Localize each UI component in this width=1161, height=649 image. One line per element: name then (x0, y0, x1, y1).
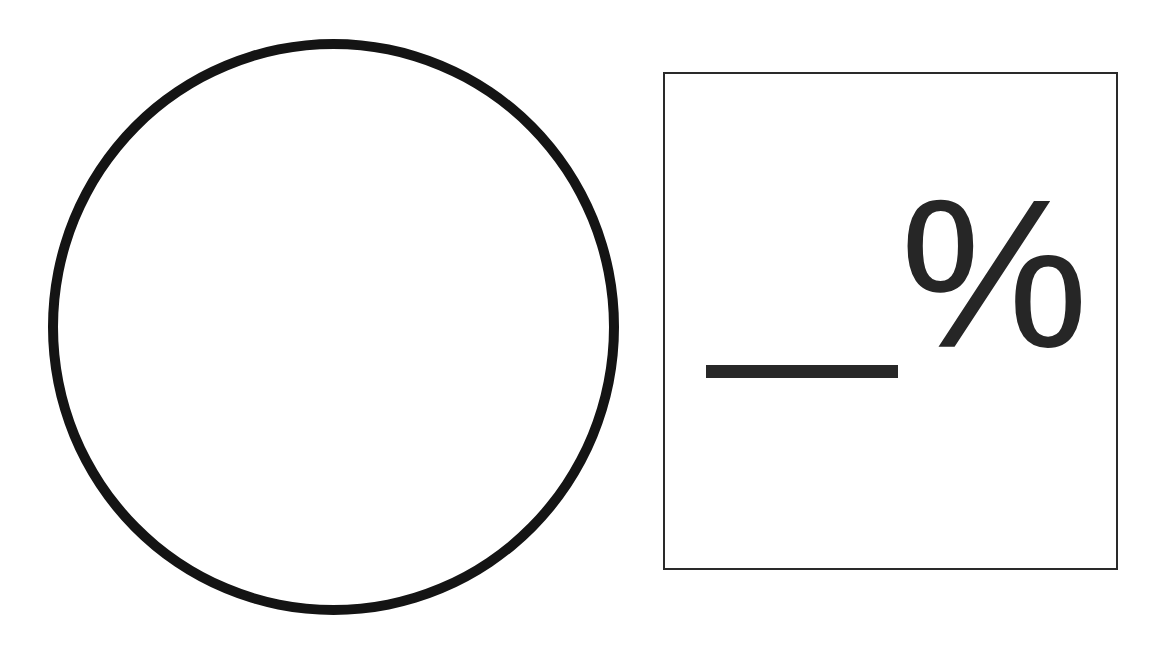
answer-blank-line[interactable] (706, 365, 898, 378)
percent-symbol: % (900, 168, 1087, 380)
circle-shape (48, 39, 619, 615)
